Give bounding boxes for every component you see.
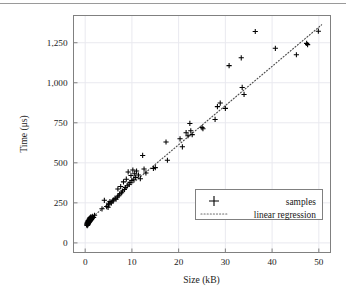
x-axis-ticks: 01020304050	[83, 249, 324, 267]
scatter-plot-figure: 02505007501,0001,250 01020304050 Size (k…	[0, 0, 346, 297]
sample-point-marker	[212, 117, 217, 122]
y-tick-label: 1,000	[47, 78, 68, 88]
sample-point-marker	[253, 29, 258, 34]
figure-page: 02505007501,0001,250 01020304050 Size (k…	[0, 0, 346, 297]
sample-point-marker	[102, 198, 107, 203]
y-tick-label: 750	[54, 118, 68, 128]
x-tick-label: 20	[174, 257, 184, 267]
x-tick-label: 0	[83, 257, 88, 267]
sample-point-marker	[240, 85, 245, 90]
y-tick-label: 0	[63, 238, 68, 248]
sample-point-marker	[187, 121, 192, 126]
y-tick-label: 1,250	[47, 38, 68, 48]
sample-point-marker	[124, 177, 129, 182]
sample-point-marker	[165, 158, 170, 163]
x-axis-title: Size (kB)	[183, 274, 220, 286]
x-tick-label: 40	[267, 257, 277, 267]
sample-point-marker	[294, 52, 299, 57]
x-tick-label: 30	[221, 257, 231, 267]
sample-point-marker	[273, 46, 278, 51]
sample-point-marker	[121, 179, 126, 184]
legend-label-linear-regression: linear regression	[254, 210, 317, 220]
sample-point-marker	[239, 55, 244, 60]
x-tick-label: 50	[314, 257, 324, 267]
sample-point-marker	[180, 144, 185, 149]
sample-point-marker	[163, 139, 168, 144]
sample-point-marker	[218, 100, 223, 105]
sample-point-marker	[304, 41, 309, 46]
sample-point-marker	[118, 184, 123, 189]
sample-point-marker	[200, 126, 205, 131]
legend-label-samples: samples	[286, 197, 317, 207]
sample-point-marker	[215, 104, 220, 109]
y-tick-label: 250	[54, 198, 68, 208]
sample-point-marker	[115, 186, 120, 191]
sample-point-marker	[126, 169, 131, 174]
y-axis-ticks: 02505007501,0001,250	[47, 38, 78, 248]
chart-legend[interactable]: samples linear regression	[196, 190, 323, 220]
sample-point-marker	[241, 92, 246, 97]
sample-point-marker	[227, 63, 232, 68]
y-axis-title: Time (μs)	[18, 115, 30, 153]
y-tick-label: 500	[54, 158, 68, 168]
sample-point-marker	[199, 125, 204, 130]
x-tick-label: 10	[127, 257, 137, 267]
sample-point-marker	[140, 153, 145, 158]
chart-svg: 02505007501,0001,250 01020304050 Size (k…	[0, 0, 346, 297]
